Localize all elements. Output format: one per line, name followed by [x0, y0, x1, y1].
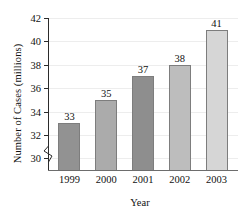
bar: 33	[58, 123, 80, 170]
x-axis-tick-label: 2003	[206, 174, 227, 185]
x-axis-tick-label: 2002	[169, 174, 190, 185]
y-axis-tick-label: 34	[31, 106, 42, 117]
y-axis-tick-label: 42	[31, 13, 42, 24]
y-axis-tick	[44, 18, 49, 19]
y-axis-title: Number of Cases (millions)	[12, 24, 23, 184]
axis-break-icon	[43, 146, 54, 162]
y-axis-tick	[44, 65, 49, 66]
bar-value-label: 41	[211, 18, 222, 29]
y-axis-tick-label: 30	[31, 153, 42, 164]
y-axis-tick-label: 36	[31, 83, 42, 94]
bar-value-label: 37	[138, 64, 149, 75]
y-axis-tick	[44, 112, 49, 113]
bar-value-label: 33	[64, 111, 75, 122]
x-axis-tick-label: 2000	[96, 174, 117, 185]
y-axis-tick	[44, 135, 49, 136]
bar: 41	[206, 30, 228, 170]
bar: 38	[169, 65, 191, 170]
bar: 37	[132, 76, 154, 170]
bar-chart: Number of Cases (millions) 3032343638404…	[0, 0, 241, 224]
gridline	[49, 18, 238, 19]
y-axis-tick	[44, 88, 49, 89]
plot-area: 30323436384042 3335373841 19992000200120…	[48, 18, 232, 170]
x-axis-tick-label: 2001	[133, 174, 154, 185]
bar: 35	[95, 100, 117, 170]
bar-value-label: 35	[101, 88, 112, 99]
y-axis-tick	[44, 41, 49, 42]
bar-value-label: 38	[175, 53, 186, 64]
x-axis-line	[48, 170, 238, 171]
x-axis-tick-label: 1999	[59, 174, 80, 185]
y-axis-tick-label: 32	[31, 129, 42, 140]
y-axis-tick-label: 40	[31, 36, 42, 47]
x-axis-title: Year	[48, 197, 232, 208]
y-axis-tick-label: 38	[31, 59, 42, 70]
